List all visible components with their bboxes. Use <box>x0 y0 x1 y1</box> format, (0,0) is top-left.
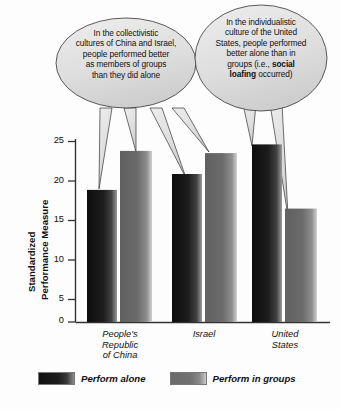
callout2-emphasis: loafing <box>230 69 257 79</box>
legend-swatch-alone-icon <box>38 372 75 385</box>
callout2-line3: States, people performed <box>199 38 323 48</box>
callout1-line2: cultures of China and Israel, <box>62 38 190 48</box>
callout2-emphasis: social <box>272 59 295 69</box>
callout1-line4: as members of groups <box>62 59 190 69</box>
callout2-text: In the individualistic <box>226 17 296 27</box>
y-tick-label-20: 20 <box>44 175 64 185</box>
x-category-label-united-states: United States <box>247 329 323 350</box>
legend-label-alone: Perform alone <box>81 373 146 384</box>
callout-individualistic-text: In the individualisticculture of the Uni… <box>199 17 323 79</box>
chart-figure: In the collectivistic cultures of China … <box>0 0 341 409</box>
x-category-label-china: People's Republic of China <box>82 329 158 361</box>
y-tick-label-15: 15 <box>44 214 64 224</box>
y-tick-label-5: 5 <box>44 293 64 303</box>
legend-swatch-groups-icon <box>170 372 207 385</box>
y-axis-title-line1: Standardized <box>26 232 37 292</box>
callout2-line2: culture of the United <box>199 27 323 37</box>
callout-pointers <box>99 104 288 216</box>
y-tick-label-25: 25 <box>44 135 64 145</box>
x-label-china-line3: of China <box>82 350 158 361</box>
callout-collectivistic-text: In the collectivistic cultures of China … <box>62 28 190 80</box>
bar-israel-groups <box>205 153 237 322</box>
chart-legend: Perform alone Perform in groups <box>38 372 308 385</box>
callout1-line5: than they did alone <box>62 70 190 80</box>
y-tick-label-0: 0 <box>44 315 64 325</box>
bar-us-groups <box>285 209 317 322</box>
bar-china-alone <box>87 190 117 322</box>
x-label-us-line1: United <box>247 329 323 340</box>
legend-label-groups: Perform in groups <box>213 373 296 384</box>
x-label-china-line1: People's <box>82 329 158 340</box>
callout2-line5: groups (i.e., social <box>199 59 323 69</box>
callout1-line3: people performed better <box>62 49 190 59</box>
callout1-line1: In the collectivistic <box>62 28 190 38</box>
callout2-text: culture of the United <box>225 27 297 37</box>
x-category-label-israel: Israel <box>166 329 242 340</box>
callout2-line1: In the individualistic <box>199 17 323 27</box>
x-label-israel-line1: Israel <box>166 329 242 340</box>
bar-israel-alone <box>172 174 202 322</box>
legend-item-perform-in-groups: Perform in groups <box>170 372 296 385</box>
x-label-us-line2: States <box>247 340 323 351</box>
x-label-china-line2: Republic <box>82 340 158 351</box>
y-tick-label-10: 10 <box>44 254 64 264</box>
callout2-line6: loafing occurred) <box>199 69 323 79</box>
bar-us-alone <box>252 144 282 322</box>
callout2-text: groups (i.e., <box>227 59 272 69</box>
y-tick-marks <box>68 142 76 323</box>
callout2-text: better alone than in <box>226 48 295 58</box>
legend-item-perform-alone: Perform alone <box>38 372 146 385</box>
callout2-text: States, people performed <box>216 38 307 48</box>
callout2-line4: better alone than in <box>199 48 323 58</box>
callout2-text: occurred) <box>256 69 292 79</box>
bar-china-groups <box>120 151 152 322</box>
